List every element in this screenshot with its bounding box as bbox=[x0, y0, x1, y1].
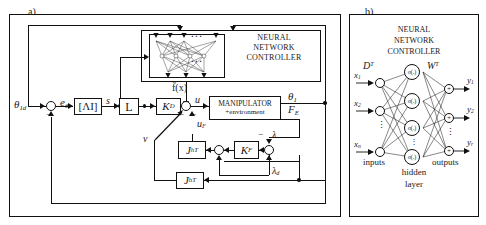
hidden-node-N: σ(.) bbox=[404, 149, 420, 165]
manipulator-subtitle: +environment bbox=[225, 109, 264, 116]
J-hT-block: JhT bbox=[176, 172, 204, 189]
output-label-y1: y1 bbox=[467, 76, 474, 86]
input-node-1 bbox=[375, 78, 385, 88]
theta-1d-label: θ1d bbox=[14, 99, 26, 111]
hidden-node-1: σ(.) bbox=[404, 64, 420, 80]
wire-JhT-input bbox=[204, 180, 325, 181]
wire-theta1d-down bbox=[28, 25, 29, 106]
wire-fhat-down bbox=[186, 82, 187, 101]
wire-theta1-feedback-horiz bbox=[51, 203, 325, 204]
wire-theta1-feedback-down bbox=[325, 25, 326, 103]
summing-junction-lambda bbox=[214, 145, 224, 155]
wire-theta1-feedback-vert bbox=[325, 103, 326, 204]
minus-sign-forceerr: − bbox=[258, 130, 263, 139]
nn-controller-title-line1: NEURAL bbox=[232, 34, 316, 42]
input-node-2 bbox=[375, 106, 385, 116]
panel-b-title-line3: CONTROLLER bbox=[349, 48, 479, 56]
inputs-label: inputs bbox=[363, 158, 385, 167]
arrow-uF-into-sum2 bbox=[189, 111, 195, 116]
arrow-into-lambdai bbox=[68, 103, 73, 109]
summing-junction-u bbox=[181, 101, 191, 111]
outputs-label: outputs bbox=[432, 158, 459, 167]
wire-v-vert bbox=[154, 140, 155, 180]
output-label-y2: y2 bbox=[467, 105, 474, 115]
arrow-lambda-into-forceerr bbox=[266, 139, 272, 144]
panel-b-title-line1: NEURAL bbox=[349, 26, 479, 34]
output-sum-node-1: + bbox=[444, 84, 454, 94]
input-label-xn: xn bbox=[354, 140, 361, 150]
panel-b-title-line2: NETWORK bbox=[349, 37, 479, 45]
figure-root: a) NEURAL NETWORK CONTROLLER bbox=[0, 0, 486, 225]
manipulator-title: MANIPULATOR bbox=[218, 100, 272, 108]
f-hat-label: f̂(x) bbox=[172, 83, 187, 93]
wire-theta1-top bbox=[233, 25, 325, 26]
arrow-into-manipulator bbox=[203, 103, 208, 109]
weight-D-label: DT bbox=[363, 61, 374, 71]
nn-controller-title-line2: NETWORK bbox=[232, 44, 316, 52]
theta-1-label: θ1 bbox=[288, 91, 297, 103]
L-block: L bbox=[119, 98, 139, 115]
wire-manipulator-FE-out bbox=[281, 119, 300, 120]
arrow-into-JhT bbox=[204, 177, 209, 183]
output-sum-node-2: + bbox=[444, 113, 454, 123]
wire-feedback-up-to-sum1 bbox=[51, 117, 52, 204]
output-sum-node-r: + bbox=[444, 146, 454, 156]
wire-lambdad-horiz bbox=[219, 175, 269, 176]
arrow-feedback-into-sum1 bbox=[48, 111, 54, 116]
arrow-lambdad-into-forceerr bbox=[266, 155, 272, 160]
wire-spacer bbox=[219, 161, 220, 162]
nn-controller-title-line3: CONTROLLER bbox=[230, 54, 318, 62]
wire-Jh-out-up bbox=[192, 134, 193, 141]
arrow-s-into-nn bbox=[144, 54, 149, 60]
weight-W-label: WT bbox=[427, 61, 439, 71]
arrow-nn-input1 bbox=[177, 26, 183, 31]
output-vdots: ⋮ bbox=[446, 128, 455, 137]
junction-dot-JhT-feed bbox=[297, 178, 300, 181]
output-label-yr: yr bbox=[467, 138, 473, 148]
minus-sign-sum2-left: − bbox=[179, 110, 184, 119]
lambda-label: λ bbox=[272, 130, 276, 140]
arrow-into-Jh bbox=[206, 147, 211, 153]
wire-FE-branch-to-JhT bbox=[299, 155, 300, 180]
input-node-n bbox=[375, 147, 385, 157]
hidden-node-2: σ(.) bbox=[404, 93, 420, 109]
v-label: v bbox=[143, 134, 147, 144]
u-F-label: uF bbox=[197, 119, 206, 130]
arrow-nn-input2 bbox=[230, 26, 236, 31]
lambda-d-label: λd bbox=[272, 166, 279, 177]
nn-mini-network-box bbox=[149, 34, 225, 78]
wire-s-to-nn bbox=[120, 57, 144, 58]
hidden-node-3: σ(.) bbox=[404, 120, 420, 136]
input-label-x2: x2 bbox=[354, 99, 361, 109]
arrow-into-KD bbox=[150, 103, 155, 109]
lambda-i-block: [ΛI] bbox=[74, 98, 102, 115]
manipulator-block: MANIPULATOR +environment bbox=[209, 96, 281, 120]
hidden-layer-label-line1: hidden bbox=[384, 168, 444, 177]
wire-sumlambda-out-right bbox=[224, 161, 299, 162]
summing-junction-force-error bbox=[264, 145, 274, 155]
e-theta-label: eθ bbox=[60, 97, 68, 109]
hidden-vdots: ⋮ bbox=[410, 138, 418, 146]
input-label-x1: x1 bbox=[354, 71, 361, 81]
input-vdots: ⋮ bbox=[377, 121, 386, 130]
arrow-into-KF bbox=[259, 147, 264, 153]
KF-block: KF bbox=[234, 141, 259, 159]
hidden-layer-label-line2: layer bbox=[384, 180, 444, 189]
wire-FE-down bbox=[299, 119, 300, 137]
u-label: u bbox=[195, 95, 200, 105]
arrow-KF-out bbox=[224, 147, 229, 153]
Jh-transpose-block: JhT bbox=[178, 141, 206, 159]
F-E-label: FE bbox=[288, 104, 299, 116]
s-label: s bbox=[106, 96, 110, 106]
wire-v-to-JhT bbox=[154, 180, 176, 181]
KD-block: KD bbox=[156, 98, 181, 115]
arrow-theta1d-into-sum1 bbox=[40, 103, 45, 109]
wire-theta1d-to-nn bbox=[28, 25, 181, 26]
